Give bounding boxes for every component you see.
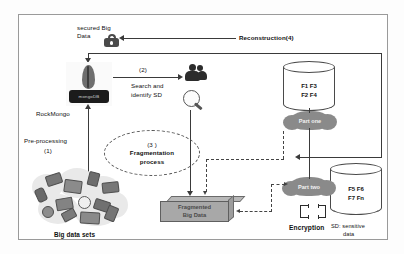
fragmentation-label-line1: Fragmentation	[130, 149, 174, 157]
cloud-part-two-label: Part two	[298, 184, 320, 190]
big-data-sets-label: Big data sets	[54, 231, 95, 239]
cylinder-two-row2: F7 Fn	[330, 194, 382, 203]
legend-label-line1: SD: sensitive	[331, 223, 365, 230]
diagram-canvas: secured Big Data Reconstruction(4) mongo…	[0, 0, 404, 254]
cloud-part-two: Part two	[288, 177, 330, 196]
padlock-icon	[104, 34, 119, 47]
preprocessing-arrow-head	[85, 104, 91, 109]
right-rail-arrow-head	[295, 154, 300, 160]
big-data-sets-cluster	[28, 168, 132, 230]
fragmented-label-line2: Big Data	[183, 212, 207, 218]
encryption-label: Encryption	[289, 224, 324, 232]
cloud-one-down-line	[309, 128, 310, 158]
fragmentation-step-label: (3 )	[147, 141, 157, 149]
fragment-route-a-v2	[206, 159, 207, 192]
rockmongo-label: RockMongo	[36, 110, 70, 118]
right-rail-line	[381, 53, 382, 158]
cloud-two-feed-line	[309, 157, 310, 179]
reconstruction-arrow-line	[124, 38, 236, 39]
cylinder-one-row2: F2 F4	[283, 91, 335, 100]
cloud-part-one-label: Part one	[299, 118, 321, 124]
fragment-route-b-arrow-head	[284, 182, 288, 186]
search-label-line2: identify SD	[131, 91, 162, 99]
top-rail-line	[88, 53, 382, 54]
preprocessing-label-line2: (1)	[44, 147, 52, 155]
reconstruction-label: Reconstruction(4)	[239, 34, 294, 42]
fragmentation-label-line2: process	[140, 158, 164, 166]
cloud-part-one: Part one	[289, 111, 331, 130]
legend-label-line2: data	[343, 231, 354, 238]
fragment-route-a-h	[206, 159, 284, 160]
fragment-route-b-v	[271, 184, 272, 212]
mongodb-leaf-icon	[82, 65, 95, 89]
step2-arrow-line	[113, 77, 178, 78]
mongodb-node: mongoDB	[66, 62, 112, 106]
cylinder-part-one: F1 F3 F2 F4	[283, 61, 335, 111]
fragment-route-b-h2	[271, 184, 285, 185]
mongodb-badge-label: mongoDB	[69, 90, 109, 103]
cylinder-one-row1: F1 F3	[283, 82, 335, 91]
cylinder-part-two: F5 F6 F7 Fn	[330, 163, 382, 215]
fragmented-big-data-box: Fragmented Big Data	[160, 196, 234, 222]
preprocessing-label-line1: Pre-processing	[24, 137, 67, 145]
right-rail-return-line	[300, 157, 382, 158]
fragment-route-b-arrow-head-left	[236, 209, 240, 213]
search-label-line1: Search and	[131, 82, 164, 90]
step2-label: (2)	[139, 66, 147, 74]
encryption-icon	[300, 205, 326, 218]
cylinder-two-row1: F5 F6	[330, 185, 382, 194]
fragment-route-a-arrow-head	[203, 191, 207, 195]
users-icon	[183, 64, 209, 81]
reconstruction-arrow-head	[119, 35, 124, 41]
fragment-route-a-v1	[283, 131, 284, 159]
fragmented-label-line1: Fragmented	[178, 204, 211, 210]
fragment-route-b-h1	[240, 211, 272, 212]
cyl-one-to-cloud-line	[309, 108, 310, 113]
magnifier-icon	[183, 90, 205, 110]
